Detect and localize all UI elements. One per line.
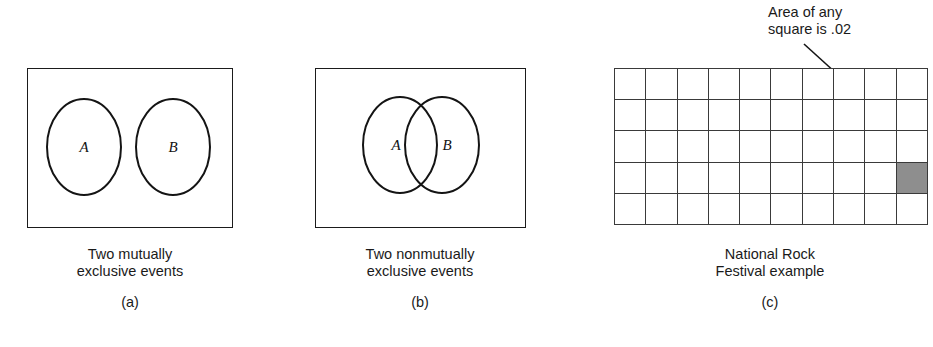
grid-cell — [708, 193, 739, 224]
panel-b: A B Two nonmutually exclusive events (b) — [300, 0, 590, 347]
grid-cell — [865, 131, 896, 162]
grid-cell — [802, 131, 833, 162]
venn-diagram-disjoint: A B — [28, 69, 234, 229]
grid-cell — [708, 69, 739, 100]
set-label-b: B — [168, 139, 177, 155]
grid-cell — [708, 131, 739, 162]
panel-a: A B Two mutually exclusive events (a) — [0, 0, 300, 347]
grid-cell — [771, 193, 802, 224]
set-label-a: A — [390, 137, 401, 153]
panel-c: Area of any square is .02 — [590, 0, 933, 347]
grid-cell — [615, 193, 646, 224]
grid-cell — [896, 131, 927, 162]
grid-cell — [615, 100, 646, 131]
grid-cell — [615, 162, 646, 193]
grid-cell — [834, 69, 865, 100]
grid-cell — [771, 69, 802, 100]
set-label-b: B — [442, 137, 451, 153]
grid-cell — [740, 162, 771, 193]
panel-letter-a: (a) — [22, 294, 238, 310]
grid-cell — [802, 69, 833, 100]
grid-cell — [708, 100, 739, 131]
grid-cell — [834, 162, 865, 193]
grid-cell — [740, 69, 771, 100]
grid-cell — [865, 69, 896, 100]
grid-row — [615, 131, 928, 162]
grid-cell — [615, 131, 646, 162]
grid-cell — [865, 193, 896, 224]
grid-cell — [646, 193, 677, 224]
grid-cell — [677, 162, 708, 193]
sample-space-box-a: A B — [27, 68, 233, 228]
grid-cell — [615, 69, 646, 100]
grid-cell — [896, 193, 927, 224]
panel-letter-c: (c) — [610, 294, 930, 310]
grid-cell — [865, 162, 896, 193]
panel-caption-b: Two nonmutually exclusive events — [310, 246, 530, 280]
grid-row — [615, 100, 928, 131]
grid-cell — [708, 162, 739, 193]
grid-row — [615, 69, 928, 100]
grid-cell — [740, 193, 771, 224]
grid-cell — [834, 100, 865, 131]
grid-cell — [646, 131, 677, 162]
probability-grid — [614, 68, 928, 225]
panel-caption-c: National Rock Festival example — [610, 246, 930, 280]
grid-cell — [646, 162, 677, 193]
grid-cell — [896, 100, 927, 131]
grid-cell — [802, 193, 833, 224]
grid-cell — [896, 69, 927, 100]
grid-cell — [646, 100, 677, 131]
grid-cell — [677, 193, 708, 224]
grid-cell — [677, 100, 708, 131]
sample-space-box-b: A B — [315, 68, 526, 228]
grid-cell — [834, 193, 865, 224]
probability-grid-wrapper — [614, 68, 928, 225]
probability-grid-body — [615, 69, 928, 225]
grid-cell — [677, 69, 708, 100]
grid-cell — [646, 69, 677, 100]
grid-annotation-label: Area of any square is .02 — [768, 4, 928, 38]
grid-row — [615, 162, 928, 193]
grid-cell — [771, 162, 802, 193]
probability-figure: A B Two mutually exclusive events (a) A … — [0, 0, 933, 347]
grid-cell — [865, 100, 896, 131]
panel-caption-a: Two mutually exclusive events — [22, 246, 238, 280]
grid-cell — [771, 100, 802, 131]
set-label-a: A — [78, 139, 89, 155]
panel-letter-b: (b) — [310, 294, 530, 310]
grid-cell — [677, 131, 708, 162]
grid-cell — [771, 131, 802, 162]
grid-cell — [740, 100, 771, 131]
grid-cell — [802, 162, 833, 193]
venn-diagram-overlapping: A B — [316, 69, 527, 229]
grid-row — [615, 193, 928, 224]
grid-cell — [834, 131, 865, 162]
grid-cell-shaded — [896, 162, 927, 193]
grid-cell — [802, 100, 833, 131]
grid-cell — [740, 131, 771, 162]
